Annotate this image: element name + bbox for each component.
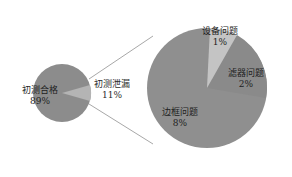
label-pass-pct: 89% xyxy=(30,96,50,106)
label-equipment-name: 设备问题 xyxy=(202,25,238,36)
connector-line-bottom xyxy=(89,104,153,144)
pie-of-pie-chart: 初测合格 89% 初测泄漏 11% 设备问题 1% 滤器问题 2% 边框问题 8… xyxy=(0,0,292,177)
label-leak-pct: 11% xyxy=(102,90,122,100)
label-frame-pct: 8% xyxy=(173,118,188,128)
connector-line-top xyxy=(89,36,153,79)
label-filter-name: 滤器问题 xyxy=(228,67,264,78)
label-frame-name: 边框问题 xyxy=(162,106,198,117)
label-equipment-pct: 1% xyxy=(213,37,228,47)
label-leak-name: 初测泄漏 xyxy=(94,78,130,89)
label-pass-name: 初测合格 xyxy=(22,84,58,95)
label-filter-pct: 2% xyxy=(239,79,254,89)
